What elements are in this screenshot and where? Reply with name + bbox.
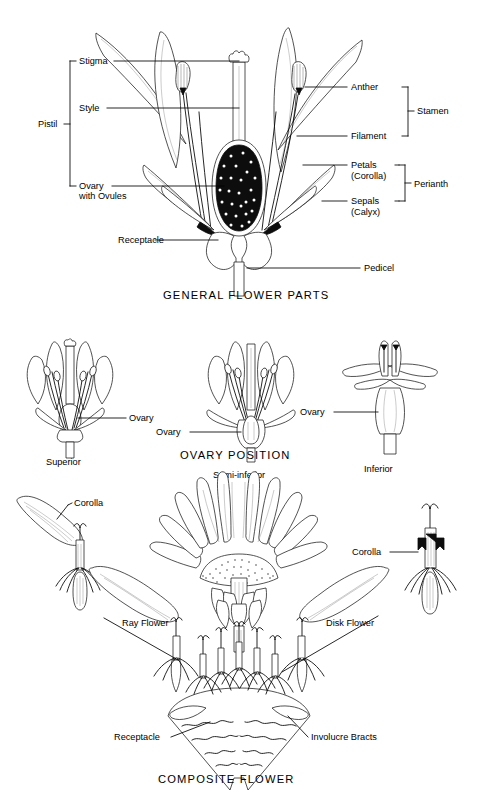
semi-petal-far-left bbox=[208, 356, 226, 404]
bracket-perianth-stubs bbox=[395, 165, 399, 201]
disk-lobe-left bbox=[418, 538, 426, 550]
sup-petal-far-right bbox=[95, 356, 113, 404]
label-receptacle-section: Receptacle bbox=[114, 732, 160, 742]
srl-achene bbox=[171, 660, 181, 692]
disk-label-corolla: Corolla bbox=[352, 547, 382, 557]
label-petals: Petals bbox=[351, 160, 377, 170]
receptacle-right-lobe bbox=[242, 232, 272, 269]
srr-achene bbox=[297, 660, 307, 692]
disk-floret-1 bbox=[186, 636, 221, 694]
label-pistil: Pistil bbox=[38, 119, 57, 129]
semi-petal-far-right bbox=[276, 356, 294, 404]
label-disk-flower: Disk Flower bbox=[326, 618, 374, 628]
head-ray-petals bbox=[150, 472, 327, 568]
ray-tube bbox=[76, 540, 84, 570]
sup-style bbox=[66, 346, 74, 404]
hr-5 bbox=[217, 472, 231, 542]
srr-tube bbox=[298, 636, 305, 660]
inf-label-ovary: Ovary bbox=[300, 407, 325, 417]
anther-left bbox=[176, 62, 190, 92]
receptacle-pedicel-group bbox=[206, 232, 271, 296]
section-ovary-position: Ovary Superior bbox=[27, 339, 437, 480]
section-ray-left bbox=[89, 566, 178, 622]
disk-lobe-right bbox=[436, 538, 444, 550]
label-ray-flower: Ray Flower bbox=[122, 618, 168, 628]
disk-stigma-branches bbox=[422, 504, 438, 509]
sup-pedicel bbox=[66, 442, 74, 458]
label-sepals: Sepals bbox=[351, 196, 379, 206]
label-ovary: Ovary bbox=[79, 181, 104, 191]
label-anther: Anther bbox=[351, 82, 378, 92]
specimen-superior: Ovary Superior bbox=[27, 339, 154, 467]
bracket-perianth bbox=[399, 165, 411, 201]
disk-floret-4 bbox=[240, 628, 275, 690]
petal-inner-left bbox=[155, 32, 181, 168]
srl-tube bbox=[173, 636, 180, 660]
label-style: Style bbox=[79, 103, 99, 113]
inf-pedicel bbox=[384, 434, 396, 454]
stigma bbox=[229, 51, 249, 62]
label-petals-corolla: (Corolla) bbox=[351, 171, 386, 181]
title-general-flower-parts: GENERAL FLOWER PARTS bbox=[163, 289, 329, 301]
bracket-stamen bbox=[402, 87, 414, 136]
label-involucre-bracts: Involucre Bracts bbox=[311, 732, 377, 742]
title-ovary-position: OVARY POSITION bbox=[180, 449, 291, 461]
sup-receptacle bbox=[57, 430, 83, 442]
bracket-pistil bbox=[64, 61, 76, 186]
sup-label-ovary: Ovary bbox=[129, 413, 154, 423]
label-filament: Filament bbox=[351, 131, 387, 141]
specimen-inferior: Ovary Inferior bbox=[300, 341, 437, 474]
ray-label-corolla: Corolla bbox=[74, 498, 104, 508]
head-bract-6 bbox=[249, 600, 262, 628]
sepal-left-inner bbox=[162, 186, 214, 230]
section-ray-floret-left bbox=[154, 618, 198, 692]
diagram-sheet: Stigma Style Ovary with Ovules Pistil Re… bbox=[0, 0, 478, 798]
sup-petal-far-left bbox=[27, 356, 45, 404]
section-ray-right bbox=[300, 566, 389, 622]
semi-ovary bbox=[243, 416, 259, 444]
composite-head bbox=[150, 472, 327, 652]
label-sepals-calyx: (Calyx) bbox=[351, 207, 380, 217]
title-composite-flower: COMPOSITE FLOWER bbox=[158, 773, 295, 785]
filament-extra-left bbox=[199, 112, 211, 230]
petal-inner-right bbox=[274, 28, 297, 172]
head-bract-5 bbox=[216, 600, 229, 628]
anther-right bbox=[292, 62, 306, 92]
ovary-cavity bbox=[216, 145, 262, 231]
section-general-flower-parts: Stigma Style Ovary with Ovules Pistil Re… bbox=[38, 28, 449, 301]
label-receptacle: Receptacle bbox=[118, 235, 164, 245]
section-composite-flower: Corolla bbox=[17, 472, 456, 790]
section-ray-floret-right bbox=[279, 618, 324, 692]
pistil-group bbox=[212, 51, 266, 236]
label-perianth: Perianth bbox=[414, 179, 448, 189]
flower-anatomy-figure: Stigma Style Ovary with Ovules Pistil Re… bbox=[0, 0, 478, 798]
ray-leader-corolla-2 bbox=[68, 503, 72, 505]
semi-label-ovary: Ovary bbox=[156, 427, 181, 437]
label-pedicel: Pedicel bbox=[364, 263, 394, 273]
disk-flower-detail: Corolla bbox=[352, 504, 456, 614]
inf-ovary bbox=[376, 388, 405, 434]
label-ovary-line2: with Ovules bbox=[78, 191, 127, 201]
inf-caption: Inferior bbox=[364, 464, 393, 474]
label-stigma: Stigma bbox=[79, 56, 108, 66]
sup-stigma bbox=[64, 339, 76, 346]
ovary bbox=[212, 140, 266, 236]
label-stamen: Stamen bbox=[417, 106, 449, 116]
hr-6 bbox=[246, 472, 260, 542]
sup-caption: Superior bbox=[46, 457, 81, 467]
ray-flower-detail: Corolla bbox=[17, 496, 104, 610]
receptacle-left-lobe bbox=[206, 232, 236, 269]
